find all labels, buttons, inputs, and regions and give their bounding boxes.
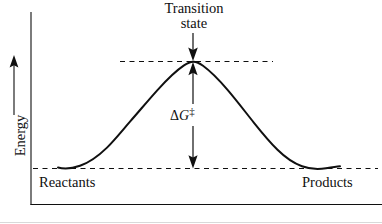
energy-axis-label: Energy — [13, 101, 28, 171]
transition-state-pointer-arrow — [188, 33, 198, 61]
energy-curve — [58, 62, 340, 169]
delta-symbol: Δ — [170, 108, 179, 123]
double-dagger-icon: ‡ — [189, 105, 195, 117]
transition-state-label: Transition state — [155, 1, 233, 31]
products-label: Products — [302, 175, 353, 190]
reactants-label: Reactants — [39, 175, 95, 190]
transition-state-label-line2: state — [155, 16, 233, 31]
reaction-energy-diagram: Transition state Energy Reactants Produc… — [0, 0, 382, 224]
gibbs-g-symbol: G — [179, 108, 189, 123]
transition-state-label-line1: Transition — [164, 0, 223, 16]
activation-energy-label: ΔG‡ — [168, 106, 197, 124]
